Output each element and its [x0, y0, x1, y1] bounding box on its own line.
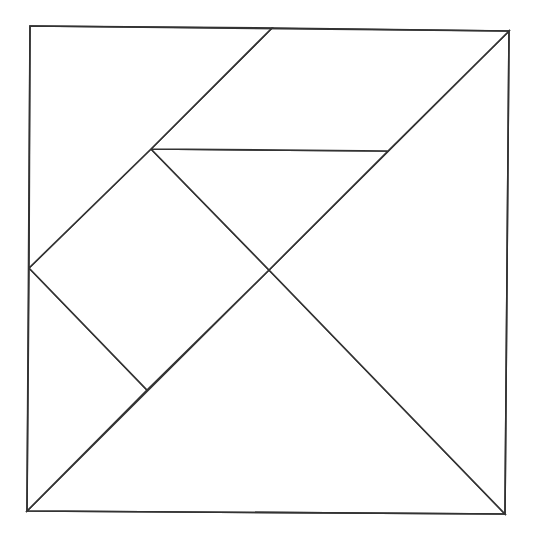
tangram-pieces	[27, 26, 509, 514]
tangram-diagram	[0, 0, 536, 541]
